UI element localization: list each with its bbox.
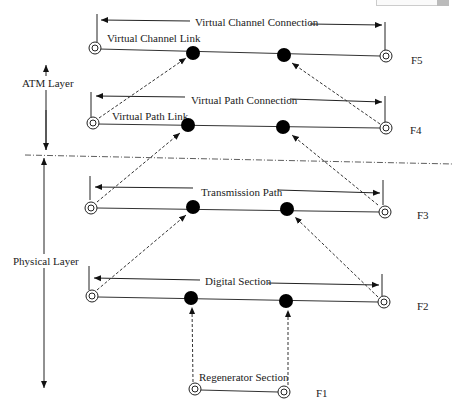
f4-label: F4 bbox=[410, 124, 422, 136]
oam-diagram: ATM Layer Physical Layer Virtual Channel… bbox=[0, 0, 453, 412]
f1-label: F1 bbox=[316, 387, 328, 399]
level-f4: Virtual Path Connection Virtual Path Lin… bbox=[87, 92, 422, 136]
level-f5: Virtual Channel Connection Virtual Chann… bbox=[89, 14, 423, 66]
f5-label: F5 bbox=[411, 54, 423, 66]
vcl-label: Virtual Channel Link bbox=[107, 32, 201, 44]
regenerator-section-label: Regenerator Section bbox=[199, 371, 289, 383]
vpl-label: Virtual Path Link bbox=[112, 110, 189, 122]
digital-section-label: Digital Section bbox=[205, 275, 272, 287]
flow-f2-f3-right bbox=[295, 217, 378, 297]
vcc-label: Virtual Channel Connection bbox=[195, 16, 319, 28]
transmission-path-label: Transmission Path bbox=[201, 186, 283, 198]
vpc-label: Virtual Path Connection bbox=[191, 94, 298, 106]
f2-label: F2 bbox=[417, 300, 429, 312]
level-f1: Regenerator Section F1 bbox=[189, 371, 328, 399]
physical-layer-label: Physical Layer bbox=[13, 255, 79, 267]
layer-separator bbox=[25, 155, 453, 164]
flow-f3-f4-right bbox=[292, 135, 378, 205]
level-f3: Transmission Path F3 bbox=[85, 176, 429, 221]
level-f2: Digital Section F2 bbox=[86, 266, 429, 312]
flow-f1-f2-left bbox=[192, 307, 193, 382]
flow-f4-f5-right bbox=[292, 63, 380, 124]
flow-f3-f4-left bbox=[97, 133, 180, 202]
f3-label: F3 bbox=[417, 209, 429, 221]
flow-f4-f5-left bbox=[99, 58, 186, 118]
atm-layer-label: ATM Layer bbox=[22, 77, 74, 89]
